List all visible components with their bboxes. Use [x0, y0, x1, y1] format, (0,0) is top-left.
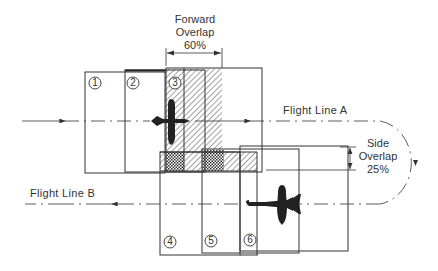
forward-overlap-line2: Overlap [160, 26, 230, 39]
frame-label-1: 1 [89, 76, 101, 89]
frame-label-5: 5 [205, 234, 217, 247]
frame-label-2: 2 [127, 76, 139, 89]
triple-overlap-area-1 [166, 152, 184, 171]
forward-overlap-line1: Forward [160, 13, 230, 26]
frame-label-6: 6 [244, 233, 256, 246]
side-overlap-value: 25% [353, 163, 403, 176]
side-overlap-line2: Overlap [353, 150, 403, 163]
forward-overlap-label: Forward Overlap 60% [160, 13, 230, 52]
side-overlap-line1: Side [353, 137, 403, 150]
side-overlap-dimension [266, 147, 356, 170]
frame-label-3: 3 [169, 76, 181, 89]
flight-line-a-label: Flight Line A [283, 104, 347, 116]
frame-label-4: 4 [164, 235, 176, 248]
flight-line-b-label: Flight Line B [30, 187, 95, 199]
forward-overlap-value: 60% [160, 39, 230, 52]
aircraft-icon-line-b [246, 185, 301, 225]
side-overlap-label: Side Overlap 25% [353, 137, 403, 176]
